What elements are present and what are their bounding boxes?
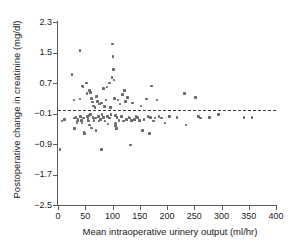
data-point: [108, 117, 111, 120]
x-tick: [276, 206, 277, 210]
data-point: [111, 43, 114, 46]
x-tick: [85, 206, 86, 210]
data-point: [93, 119, 96, 122]
data-point: [131, 102, 134, 105]
data-point: [124, 100, 127, 103]
data-point: [105, 99, 108, 102]
scatter-plot-figure: −2.5−1.7−0.9−0.10.71.52.3 05010015020025…: [0, 0, 307, 246]
data-point: [160, 117, 163, 120]
data-point: [91, 101, 94, 104]
data-point: [123, 89, 126, 92]
data-point: [85, 82, 88, 85]
data-point: [107, 123, 110, 126]
data-point: [100, 148, 103, 151]
data-point: [82, 86, 85, 89]
y-axis-title: Postoperative change in creatinine (mg/d…: [11, 15, 22, 205]
data-point: [217, 113, 220, 116]
data-point: [113, 79, 116, 82]
data-point: [115, 127, 118, 130]
data-point: [79, 98, 82, 101]
data-point: [120, 115, 123, 118]
x-tick: [113, 206, 114, 210]
data-point: [185, 124, 188, 127]
data-point: [103, 105, 106, 108]
data-point: [104, 120, 107, 123]
zero-reference-line: [58, 110, 276, 111]
data-point: [251, 116, 254, 119]
data-point: [208, 116, 211, 119]
data-point: [90, 97, 93, 100]
data-point: [76, 122, 79, 125]
data-point: [83, 132, 86, 135]
x-tick: [194, 206, 195, 210]
data-point: [118, 119, 121, 122]
data-point: [194, 96, 197, 99]
data-point: [113, 97, 116, 100]
x-tick-label: 300: [207, 211, 237, 221]
data-point: [108, 82, 111, 85]
data-point: [73, 127, 76, 130]
data-point: [89, 91, 92, 94]
data-point: [145, 98, 148, 101]
data-point: [81, 122, 84, 125]
data-point: [114, 122, 117, 125]
data-point: [73, 99, 76, 102]
data-point: [152, 120, 155, 123]
data-point: [106, 86, 109, 89]
data-point: [133, 118, 136, 121]
x-tick-label: 150: [125, 211, 155, 221]
data-point: [122, 120, 125, 123]
y-tick-label: −2.5: [20, 201, 52, 210]
x-tick-label: 100: [98, 211, 128, 221]
y-tick-label: 1.5: [20, 48, 52, 57]
data-point: [121, 93, 124, 96]
data-point: [87, 120, 90, 123]
data-point: [126, 96, 129, 99]
y-tick-label: −1.7: [20, 170, 52, 179]
data-point: [79, 115, 82, 118]
x-tick: [249, 206, 250, 210]
x-axis-title: Mean intraoperative urinery output (ml/h…: [40, 226, 300, 237]
data-point: [63, 118, 66, 121]
data-point: [88, 124, 91, 127]
x-tick-label: 250: [179, 211, 209, 221]
x-tick-label: 0: [43, 211, 73, 221]
data-point: [111, 76, 114, 79]
data-point: [168, 115, 171, 118]
x-tick-label: 50: [70, 211, 100, 221]
data-point: [95, 95, 98, 98]
data-point: [149, 116, 152, 119]
data-point: [95, 129, 98, 132]
data-point: [94, 106, 97, 109]
data-point: [102, 116, 105, 119]
data-point: [164, 122, 167, 125]
data-point: [243, 116, 246, 119]
data-point: [117, 99, 120, 102]
data-point: [112, 55, 115, 58]
data-point: [99, 118, 102, 121]
x-tick: [140, 206, 141, 210]
data-point: [86, 92, 89, 95]
data-point: [156, 99, 159, 102]
data-point: [141, 129, 144, 132]
data-point: [102, 87, 105, 90]
data-point: [148, 132, 151, 135]
x-tick: [222, 206, 223, 210]
data-point: [109, 106, 112, 109]
data-point: [100, 102, 103, 105]
data-point: [199, 117, 202, 120]
data-point: [183, 92, 186, 95]
data-point: [176, 116, 179, 119]
data-point: [140, 105, 143, 108]
x-tick-label: 400: [261, 211, 291, 221]
data-point: [79, 49, 82, 52]
data-point: [154, 117, 157, 120]
data-point: [138, 119, 141, 122]
data-point: [119, 103, 122, 106]
x-tick-label: 350: [234, 211, 264, 221]
data-point: [129, 144, 132, 147]
data-point: [110, 113, 113, 116]
y-tick-label: −0.9: [20, 140, 52, 149]
data-point: [143, 118, 146, 121]
plot-area: [58, 22, 276, 205]
